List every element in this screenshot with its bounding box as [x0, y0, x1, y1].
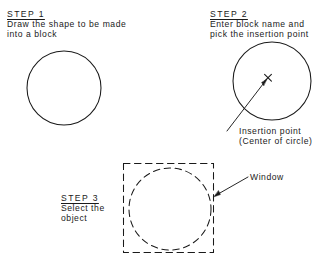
insertion-point-line-2: (Center of circle) — [239, 136, 312, 146]
step-2-text-block: STEP 2 Enter block name and pick the ins… — [210, 9, 309, 40]
step-3-line-2: object — [61, 213, 105, 223]
step-1-line-1: Draw the shape to be made — [7, 19, 126, 29]
step3-selection-window — [124, 164, 214, 253]
step1-circle — [27, 51, 101, 125]
step-3-heading: STEP 3 — [61, 193, 105, 203]
step-2-heading: STEP 2 — [210, 9, 309, 19]
step-1-text-block: STEP 1 Draw the shape to be made into a … — [7, 9, 126, 40]
window-label: Window — [250, 172, 284, 182]
insertion-point-annotation: Insertion point (Center of circle) — [239, 126, 312, 146]
insertion-point-line-1: Insertion point — [239, 126, 312, 136]
window-leader-arrowhead — [214, 191, 220, 197]
window-annotation: Window — [250, 172, 284, 182]
step-3-line-1: Select the — [61, 203, 105, 213]
insertion-point-x-icon — [265, 74, 272, 81]
step-3-text-block: STEP 3 Select the object — [61, 193, 105, 224]
step-1-line-2: into a block — [7, 29, 126, 39]
step-1-heading: STEP 1 — [7, 9, 126, 19]
step-2-line-2: pick the insertion point — [210, 29, 309, 39]
step-2-line-1: Enter block name and — [210, 19, 309, 29]
window-leader-line — [216, 177, 249, 196]
block-creation-diagram: STEP 1 Draw the shape to be made into a … — [0, 0, 335, 263]
step3-selected-circle — [129, 168, 211, 250]
step2-leader-line — [227, 80, 267, 132]
